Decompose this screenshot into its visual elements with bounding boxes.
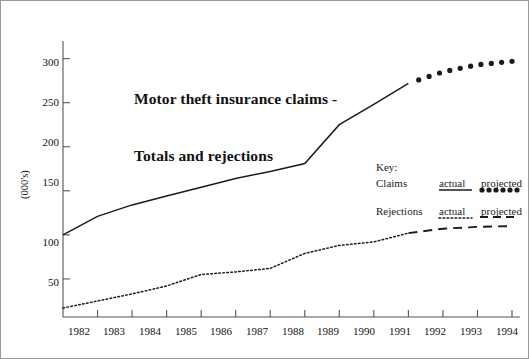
legend-claims-projected-swatch bbox=[479, 187, 519, 192]
y-axis-ticks bbox=[63, 59, 70, 279]
chart-figure: Motor theft insurance claims - Totals an… bbox=[0, 0, 529, 359]
series-rejections-actual-line bbox=[63, 233, 408, 308]
series-claims-actual-line bbox=[63, 83, 408, 235]
series-claims-projected-markers bbox=[416, 59, 514, 83]
series-rejections-projected-line bbox=[408, 226, 512, 233]
chart-plot-area bbox=[1, 1, 529, 359]
x-axis-ticks bbox=[98, 310, 512, 317]
